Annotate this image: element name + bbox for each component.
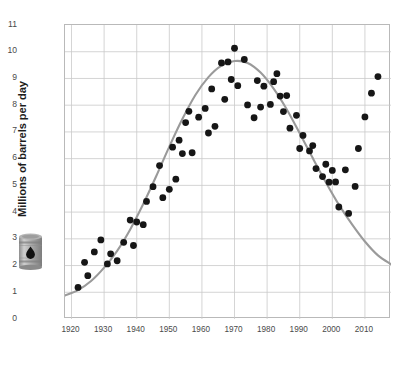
gridlines xyxy=(65,25,391,319)
y-tick-label: 3 xyxy=(0,232,17,242)
x-tick-label: 2010 xyxy=(344,325,384,334)
y-tick-label: 5 xyxy=(0,179,17,189)
y-tick-label: 2 xyxy=(0,259,17,269)
data-points xyxy=(75,45,382,291)
y-tick-label: 8 xyxy=(0,99,17,109)
y-tick-label: 6 xyxy=(0,152,17,162)
y-tick-label: 11 xyxy=(0,19,17,29)
y-tick-label: 10 xyxy=(0,45,17,55)
y-tick-label: 7 xyxy=(0,125,17,135)
oil-production-figure: Millions of barrels per day xyxy=(0,0,411,365)
y-tick-label: 1 xyxy=(0,286,17,296)
oil-barrel-icon xyxy=(18,233,43,271)
y-axis-label: Millions of barrels per day xyxy=(16,44,28,254)
y-tick-label: 9 xyxy=(0,72,17,82)
chart-canvas xyxy=(65,25,391,319)
plot-area xyxy=(64,24,390,318)
y-tick-label: 4 xyxy=(0,206,17,216)
y-tick-label: 0 xyxy=(0,313,17,323)
